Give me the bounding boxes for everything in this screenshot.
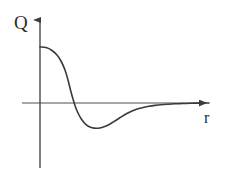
data-curve [40, 47, 209, 128]
figure-container: Q r [0, 0, 227, 176]
y-axis-label: Q [14, 13, 28, 32]
x-axis-label: r [204, 110, 209, 126]
plot-canvas [0, 0, 227, 176]
